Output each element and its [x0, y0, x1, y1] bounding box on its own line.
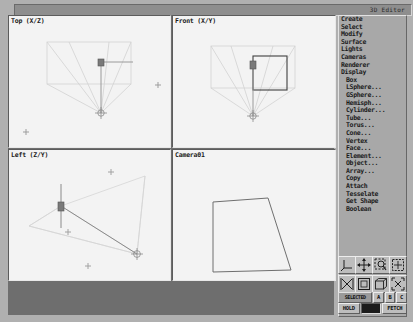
app-window: 3D Editor Top (X/Z): [0, 0, 413, 322]
viewport-left-label: Left (Z/Y): [11, 151, 48, 159]
axis-tripod-icon: [340, 258, 354, 272]
view-square-icon-button[interactable]: [355, 275, 373, 293]
hold-status-field: [361, 303, 382, 314]
move-arrows-icon: [357, 258, 371, 272]
viewport-top[interactable]: Top (X/Z): [8, 15, 171, 148]
grid-icon-button[interactable]: [389, 256, 407, 274]
zoom-region-icon: [374, 258, 388, 272]
icon-button-grid: [338, 256, 407, 294]
viewport-camera[interactable]: Camera01: [172, 149, 336, 281]
viewport-left[interactable]: Left (Z/Y): [8, 149, 171, 281]
zoom-extents-icon-button[interactable]: [389, 275, 407, 293]
menu-item-boolean[interactable]: Boolean: [340, 206, 404, 214]
viewport-front-wireframe: [173, 16, 335, 147]
hold-fetch-row: HOLD FETCH: [338, 303, 407, 314]
viewport-top-wireframe: [9, 16, 170, 147]
scale-icon: [340, 277, 354, 291]
viewport-grid: Top (X/Z): [8, 15, 334, 315]
tool-block: SELECTED A B C HOLD FETCH: [338, 256, 407, 318]
set-a-button[interactable]: A: [373, 292, 384, 303]
app-title: 3D Editor: [370, 5, 405, 15]
viewport-front-label: Front (X/Y): [175, 17, 216, 25]
zoom-region-icon-button[interactable]: [372, 256, 390, 274]
selected-label: SELECTED: [338, 292, 372, 303]
viewport-camera-wireframe: [173, 150, 335, 280]
fetch-button[interactable]: FETCH: [382, 303, 407, 314]
viewport-left-wireframe: [9, 150, 170, 280]
axis-tripod-icon-button[interactable]: [338, 256, 356, 274]
zoom-extents-icon: [391, 277, 405, 291]
cube-icon-button[interactable]: [372, 275, 390, 293]
command-menu: Create Select Modify Surface Lights Came…: [340, 16, 404, 213]
selection-status-row: SELECTED A B C: [338, 292, 407, 302]
selected-object-outline: [253, 56, 287, 90]
hold-button[interactable]: HOLD: [338, 303, 360, 314]
viewport-front[interactable]: Front (X/Y): [172, 15, 336, 148]
camera-view-object: [213, 198, 291, 272]
set-b-button[interactable]: B: [385, 292, 396, 303]
set-c-button[interactable]: C: [396, 292, 407, 303]
view-square-icon: [357, 277, 371, 291]
viewport-top-label: Top (X/Z): [11, 17, 44, 25]
cube-icon: [374, 277, 388, 291]
move-arrows-icon-button[interactable]: [355, 256, 373, 274]
viewport-camera-label: Camera01: [175, 151, 205, 159]
scale-icon-button[interactable]: [338, 275, 356, 293]
title-bar: 3D Editor: [0, 0, 413, 14]
grid-icon: [391, 258, 405, 272]
